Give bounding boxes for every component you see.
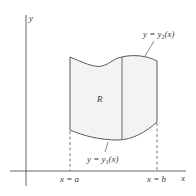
lower-curve-leader — [105, 142, 108, 152]
x-axis-label: x — [181, 174, 185, 183]
upper-curve-label: y = y2(x) — [143, 30, 175, 40]
region-r — [70, 56, 157, 140]
region-label: R — [97, 95, 103, 104]
y-axis-label: y — [29, 14, 33, 23]
left-bound-label: x = a — [60, 175, 79, 184]
right-bound-label: x = b — [147, 175, 166, 184]
lower-curve-label: y = y1(x) — [87, 155, 119, 165]
upper-curve-leader — [145, 41, 154, 56]
